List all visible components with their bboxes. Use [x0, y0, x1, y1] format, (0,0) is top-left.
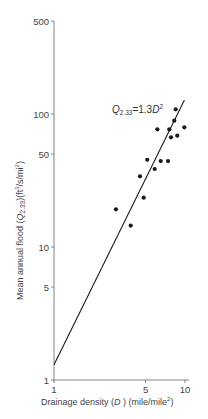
x-tick-label: 1: [51, 384, 56, 395]
data-point: [169, 135, 173, 139]
data-point: [166, 159, 170, 163]
data-point: [129, 223, 133, 227]
data-point: [138, 174, 142, 178]
axes: 1510501005001510: [33, 16, 190, 395]
data-point: [114, 207, 118, 211]
x-tick-label: 10: [180, 384, 191, 395]
y-tick-label: 100: [33, 109, 49, 120]
y-tick-label: 500: [33, 16, 49, 27]
data-point: [145, 158, 149, 162]
data-point: [159, 159, 163, 163]
data-point: [175, 134, 179, 138]
fit-line: [54, 100, 184, 365]
y-tick-label: 10: [38, 242, 49, 253]
data-point: [167, 127, 171, 131]
data-points: [114, 107, 187, 227]
data-point: [174, 107, 178, 111]
data-point: [172, 119, 176, 123]
data-point: [155, 127, 159, 131]
data-point: [142, 196, 146, 200]
y-tick-label: 5: [44, 282, 49, 293]
y-tick-label: 50: [38, 149, 49, 160]
data-point: [153, 167, 157, 171]
y-tick-label: 1: [44, 375, 49, 386]
x-axis-title: Drainage density (D ) (mile/mile2): [41, 396, 173, 407]
y-axis-title: Mean annual flood (Q2.33)(ft3/s/mi2): [14, 161, 26, 300]
x-tick-label: 5: [143, 384, 148, 395]
data-point: [182, 125, 186, 129]
equation-annotation: Q2.33=1.3D2: [112, 103, 163, 116]
regression-line: [54, 100, 184, 365]
scatter-chart: 1510501005001510 Q2.33=1.3D2 Drainage de…: [0, 0, 208, 419]
